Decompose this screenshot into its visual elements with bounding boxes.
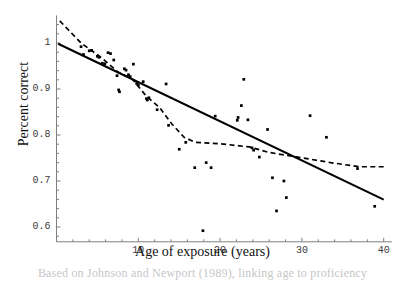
data-point (125, 69, 128, 72)
data-point (146, 99, 149, 102)
data-point (80, 45, 83, 48)
smoothed-trend-line (60, 21, 384, 167)
data-point (184, 141, 187, 144)
data-point (236, 119, 239, 122)
data-point (202, 229, 205, 232)
data-point (325, 136, 328, 139)
data-point (237, 116, 240, 119)
data-point (137, 84, 140, 87)
data-point (90, 49, 93, 52)
data-point (109, 52, 112, 55)
data-points-group (80, 45, 376, 232)
regression-line (58, 44, 384, 200)
data-point (142, 80, 145, 83)
data-point (101, 62, 104, 65)
data-point (148, 96, 151, 99)
data-point (116, 74, 119, 77)
data-point (165, 83, 168, 86)
data-point (275, 210, 278, 213)
data-point (271, 176, 274, 179)
data-point (309, 114, 312, 117)
data-point (107, 51, 110, 54)
data-point (82, 53, 85, 56)
data-point (103, 62, 106, 65)
data-point (258, 156, 261, 159)
data-point (118, 90, 121, 93)
data-point (247, 118, 250, 121)
y-tick-label: 0.7 (17, 175, 51, 186)
figure-caption: Based on Johnson and Newport (1989), lin… (0, 266, 405, 281)
data-point (112, 59, 115, 62)
x-axis-title: Age of exposure (years) (0, 244, 405, 260)
data-point (356, 167, 359, 170)
data-point (88, 49, 91, 52)
data-point (129, 75, 132, 78)
data-point (214, 115, 217, 118)
data-point (167, 124, 170, 127)
data-point (205, 161, 208, 164)
data-point (178, 148, 181, 151)
data-point (251, 147, 254, 150)
axes-group (57, 15, 392, 241)
y-axis-title: Percent correct (16, 34, 32, 174)
data-point (240, 104, 243, 107)
y-tick-label: 0.6 (17, 221, 51, 232)
data-point (242, 78, 245, 81)
data-point (210, 166, 213, 169)
data-point (252, 149, 255, 152)
data-point (98, 56, 101, 59)
data-point (156, 108, 159, 111)
data-point (132, 63, 135, 66)
trend-lines-group (58, 21, 384, 200)
data-point (266, 128, 269, 131)
data-point (193, 166, 196, 169)
data-point (283, 180, 286, 183)
data-point (285, 196, 288, 199)
data-point (373, 205, 376, 208)
